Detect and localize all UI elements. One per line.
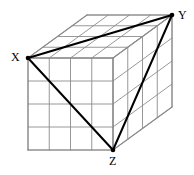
figure-root: X Y Z: [0, 0, 194, 175]
vertex-dots: [26, 13, 175, 153]
vertex-label-x: X: [11, 51, 20, 63]
vertex-label-y: Y: [178, 9, 187, 21]
vertex-label-z: Z: [109, 155, 116, 167]
cuboid-diagram-svg: [0, 0, 194, 175]
